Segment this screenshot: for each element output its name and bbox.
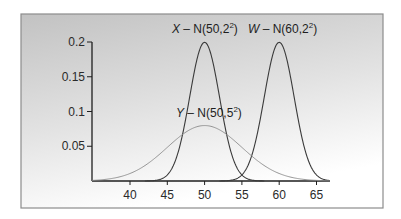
x-tick-label: 50 xyxy=(198,188,212,202)
y-tick-label: 0.2 xyxy=(68,35,85,49)
curve-label-w: W – N(60,22) xyxy=(248,21,317,36)
x-tick-label: 65 xyxy=(310,188,324,202)
y-tick-label: 0.15 xyxy=(62,70,86,84)
curve-label-x: X – N(50,22) xyxy=(171,21,238,36)
y-tick-label: 0.1 xyxy=(68,105,85,119)
y-tick-label: 0.05 xyxy=(62,139,86,153)
x-tick-label: 60 xyxy=(273,188,287,202)
curve-label-y: Y – N(50,52) xyxy=(176,105,242,120)
x-tick-label: 55 xyxy=(235,188,249,202)
chart: 0.050.10.150.2 404550556065 X – N(50,22)… xyxy=(0,0,401,219)
x-tick-label: 40 xyxy=(123,188,137,202)
x-tick-label: 45 xyxy=(161,188,175,202)
